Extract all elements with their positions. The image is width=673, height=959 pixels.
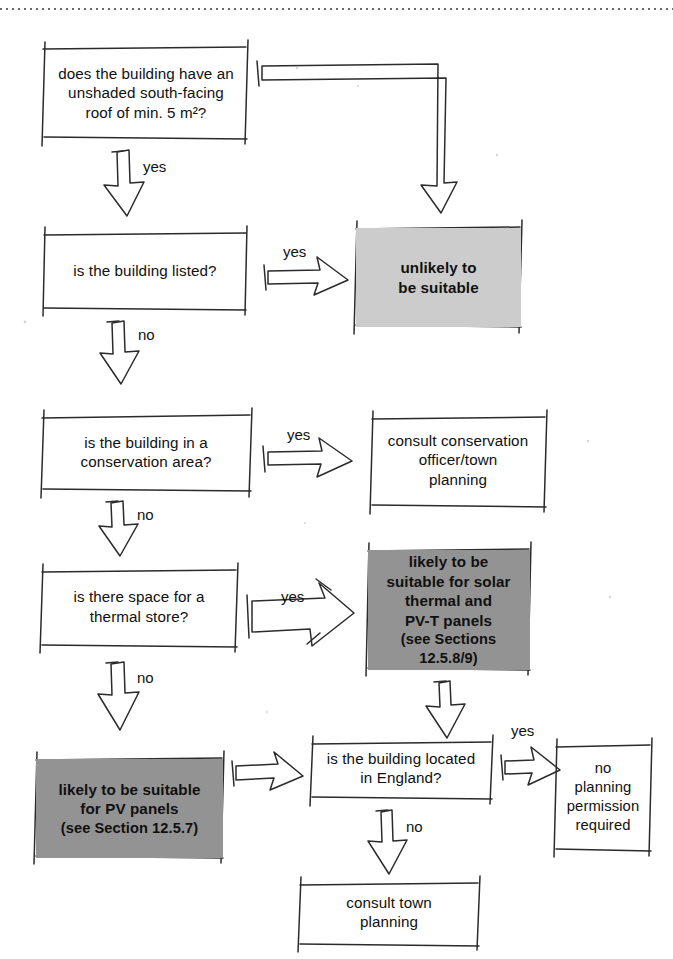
arrow-yes-roof-to-listed (104, 150, 144, 216)
question-building-listed-label: is the building listed? (46, 261, 244, 280)
result-unlikely-suitable[interactable]: unlikely to be suitable (356, 228, 521, 327)
question-unshaded-roof-label: does the building have an unshaded south… (46, 64, 246, 122)
result-likely-suitable-pv-reference: (see Section 12.5.7) (61, 819, 198, 838)
result-no-planning-permission[interactable]: no planning permission required (554, 740, 652, 854)
action-consult-conservation-officer[interactable]: consult conservation officer/town planni… (370, 411, 546, 509)
arrow-yes-listed-to-unlikely (264, 257, 348, 295)
edge-label-no-conservation: no (137, 506, 154, 523)
edge-label-yes-roof-down: yes (143, 158, 166, 175)
edge-label-yes-england: yes (511, 722, 534, 739)
result-likely-suitable-solar-thermal-reference: (see Sections 12.5.8/9) (370, 630, 527, 667)
result-unlikely-suitable-label: unlikely to be suitable (360, 258, 517, 297)
flowchart-canvas: does the building have an unshaded south… (0, 0, 673, 959)
arrow-pv-to-england (232, 752, 303, 790)
question-thermal-store-space-label: is there space for a thermal store? (45, 587, 233, 626)
question-conservation-area-label: is the building in a conservation area? (45, 433, 247, 472)
edge-label-no-england: no (406, 818, 423, 835)
action-consult-town-planning-label: consult town planning (302, 893, 476, 932)
arrow-solar-thermal-to-england (426, 681, 465, 738)
arrow-no-listed-to-conservation (100, 321, 139, 384)
edge-label-yes-thermal-store: yes (281, 588, 304, 605)
question-conservation-area[interactable]: is the building in a conservation area? (41, 410, 251, 494)
question-located-in-england-label: is the building located in England? (314, 749, 488, 788)
result-likely-suitable-solar-thermal-label: likely to be suitable for solar thermal … (370, 552, 527, 630)
edge-label-yes-conservation: yes (287, 426, 310, 443)
question-unshaded-roof[interactable]: does the building have an unshaded south… (42, 42, 250, 144)
edge-label-no-thermal-store: no (137, 669, 154, 686)
result-likely-suitable-pv-label: likely to be suitable for PV panels (40, 780, 219, 819)
arrow-yes-conservation-to-consult (263, 438, 352, 477)
edge-label-no-listed: no (138, 326, 155, 343)
arrow-no-thermal-store-to-pv (98, 662, 139, 730)
result-no-planning-permission-label: no planning permission required (558, 759, 648, 835)
action-consult-town-planning[interactable]: consult town planning (298, 877, 480, 947)
action-consult-conservation-officer-label: consult conservation officer/town planni… (374, 431, 542, 489)
result-likely-suitable-pv[interactable]: likely to be suitable for PV panels (see… (36, 759, 223, 858)
question-located-in-england[interactable]: is the building located in England? (310, 736, 492, 800)
result-likely-suitable-solar-thermal[interactable]: likely to be suitable for solar thermal … (366, 548, 531, 672)
arrow-yes-england-to-no-permission (501, 747, 560, 785)
edge-label-yes-listed: yes (283, 243, 306, 260)
arrow-no-england-to-consult-town (368, 810, 407, 874)
arrow-no-conservation-to-thermal-store (99, 501, 138, 556)
question-building-listed[interactable]: is the building listed? (42, 228, 248, 314)
arrow-no-roof-to-unlikely (257, 61, 457, 213)
question-thermal-store-space[interactable]: is there space for a thermal store? (41, 564, 237, 649)
